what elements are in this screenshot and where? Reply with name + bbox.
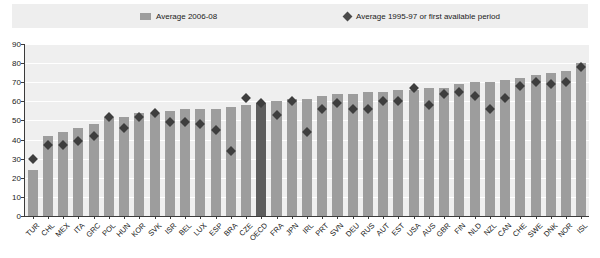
y-tick-label: 80 — [12, 59, 21, 68]
y-tick-mark — [21, 197, 24, 198]
x-tick-mark — [581, 216, 582, 219]
x-tick-mark — [292, 216, 293, 219]
y-tick-label: 90 — [12, 40, 21, 49]
bar-gbr — [439, 88, 449, 216]
bar-nor — [561, 71, 571, 216]
x-tick-mark — [200, 216, 201, 219]
legend-diamond-label: Average 1995-97 or first available perio… — [356, 12, 500, 21]
plot-area — [25, 44, 589, 216]
legend-item-bars: Average 2006-08 — [140, 4, 217, 28]
legend-bar-swatch-icon — [140, 13, 151, 20]
x-tick-mark — [78, 216, 79, 219]
gridline — [25, 44, 589, 45]
y-axis-labels: 0102030405060708090 — [0, 0, 21, 258]
x-tick-mark — [48, 216, 49, 219]
x-tick-mark — [185, 216, 186, 219]
y-tick-mark — [21, 140, 24, 141]
x-tick-mark — [337, 216, 338, 219]
y-axis-line — [24, 44, 25, 217]
x-tick-mark — [398, 216, 399, 219]
x-tick-mark — [505, 216, 506, 219]
x-tick-mark — [368, 216, 369, 219]
x-tick-mark — [566, 216, 567, 219]
chart-root: Average 2006-08 Average 1995-97 or first… — [0, 0, 600, 258]
x-tick-mark — [551, 216, 552, 219]
bar-isl — [576, 63, 586, 216]
x-tick-mark — [383, 216, 384, 219]
x-tick-mark — [307, 216, 308, 219]
x-tick-mark — [322, 216, 323, 219]
bar-est — [393, 90, 403, 216]
x-tick-mark — [170, 216, 171, 219]
x-tick-mark — [246, 216, 247, 219]
y-tick-label: 20 — [12, 173, 21, 182]
legend-item-diamond: Average 1995-97 or first available perio… — [344, 4, 500, 28]
x-tick-mark — [94, 216, 95, 219]
x-tick-mark — [414, 216, 415, 219]
y-tick-mark — [21, 101, 24, 102]
y-tick-label: 70 — [12, 78, 21, 87]
y-tick-mark — [21, 63, 24, 64]
bar-irl — [302, 99, 312, 216]
bar-cze — [241, 105, 251, 216]
x-tick-mark — [139, 216, 140, 219]
bar-swe — [531, 75, 541, 216]
x-tick-mark — [277, 216, 278, 219]
x-tick-mark — [216, 216, 217, 219]
y-tick-mark — [21, 216, 24, 217]
x-tick-mark — [109, 216, 110, 219]
y-tick-mark — [21, 178, 24, 179]
x-tick-mark — [459, 216, 460, 219]
x-tick-mark — [155, 216, 156, 219]
x-tick-mark — [124, 216, 125, 219]
bar-nld — [470, 82, 480, 216]
marker-tur — [28, 154, 38, 164]
x-tick-mark — [353, 216, 354, 219]
y-tick-mark — [21, 44, 24, 45]
x-tick-mark — [261, 216, 262, 219]
x-tick-mark — [444, 216, 445, 219]
x-tick-mark — [536, 216, 537, 219]
bar-jpn — [287, 99, 297, 216]
y-tick-label: 50 — [12, 116, 21, 125]
legend-bars-label: Average 2006-08 — [156, 12, 217, 21]
x-tick-mark — [63, 216, 64, 219]
y-tick-mark — [21, 159, 24, 160]
bar-dnk — [546, 73, 556, 216]
y-tick-label: 60 — [12, 97, 21, 106]
bar-nzl — [485, 82, 495, 216]
chart-legend: Average 2006-08 Average 1995-97 or first… — [12, 4, 588, 28]
bar-svn — [332, 94, 342, 216]
y-tick-mark — [21, 82, 24, 83]
x-tick-mark — [231, 216, 232, 219]
gridline — [25, 63, 589, 64]
bar-bra — [226, 107, 236, 216]
bar-usa — [409, 90, 419, 216]
x-tick-mark — [429, 216, 430, 219]
y-tick-label: 40 — [12, 135, 21, 144]
bar-tur — [28, 170, 38, 216]
y-tick-label: 30 — [12, 154, 21, 163]
y-tick-label: 10 — [12, 192, 21, 201]
y-tick-mark — [21, 120, 24, 121]
bar-pol — [104, 117, 114, 216]
bar-kor — [134, 113, 144, 216]
x-tick-mark — [475, 216, 476, 219]
legend-diamond-swatch-icon — [343, 11, 353, 21]
bar-che — [515, 78, 525, 216]
x-tick-mark — [33, 216, 34, 219]
bar-oecd — [256, 103, 266, 216]
bar-svk — [150, 113, 160, 216]
x-tick-mark — [490, 216, 491, 219]
bar-aut — [378, 92, 388, 216]
x-tick-mark — [520, 216, 521, 219]
bar-fin — [454, 84, 464, 216]
